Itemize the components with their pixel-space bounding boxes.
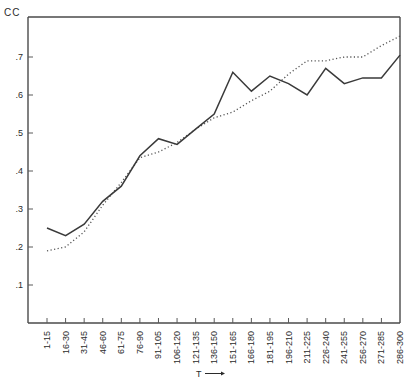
x-tick-label: 166-180 xyxy=(246,331,256,364)
x-tick-label: 181-195 xyxy=(265,331,275,364)
x-tick-label: 271-285 xyxy=(376,331,386,364)
dotted-series-line xyxy=(47,36,400,251)
x-tick-label: 31-45 xyxy=(79,331,89,354)
x-axis-title: T xyxy=(196,369,202,379)
x-tick-label: 46-60 xyxy=(98,331,108,354)
solid-series-line xyxy=(47,55,400,236)
y-axis-title: CC xyxy=(4,7,20,18)
x-tick-label: 1-15 xyxy=(42,331,52,349)
x-tick-label: 136-150 xyxy=(209,331,219,364)
x-tick-label: 226-240 xyxy=(321,331,331,364)
x-tick-label: 121-135 xyxy=(191,331,201,364)
x-tick-label: 286-300 xyxy=(395,331,405,364)
x-tick-label: 61-75 xyxy=(116,331,126,354)
x-tick-label: 241-255 xyxy=(339,331,349,364)
y-tick-label: .2 xyxy=(15,242,23,252)
x-tick-label: 196-210 xyxy=(284,331,294,364)
y-tick-label: .6 xyxy=(15,90,23,100)
x-axis-ticks: 1-1516-3031-4546-6061-7576-9091-105106-1… xyxy=(42,318,405,364)
arrowhead-icon xyxy=(221,372,225,376)
y-tick-label: .4 xyxy=(15,166,23,176)
y-axis-ticks: .1.2.3.4.5.6.7 xyxy=(15,52,33,290)
x-tick-label: 151-165 xyxy=(228,331,238,364)
x-tick-label: 211-225 xyxy=(302,331,312,363)
x-axis-title-group: T xyxy=(196,369,225,379)
x-tick-label: 76-90 xyxy=(135,331,145,354)
y-tick-label: .3 xyxy=(15,204,23,214)
line-chart: CC .1.2.3.4.5.6.7 1-1516-3031-4546-6061-… xyxy=(0,0,416,388)
x-tick-label: 106-120 xyxy=(172,331,182,364)
x-tick-label: 91-105 xyxy=(153,331,163,359)
y-tick-label: .1 xyxy=(15,280,23,290)
plot-frame xyxy=(28,17,400,323)
y-tick-label: .7 xyxy=(15,52,23,62)
y-tick-label: .5 xyxy=(15,128,23,138)
x-tick-label: 16-30 xyxy=(61,331,71,354)
x-tick-label: 256-270 xyxy=(358,331,368,364)
